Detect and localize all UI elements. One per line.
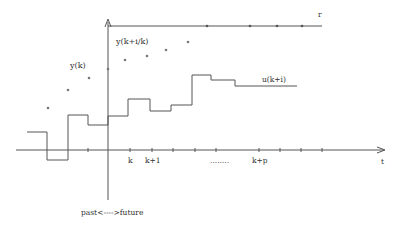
measured-output-label: y(k)	[69, 61, 86, 70]
predicted-output-label: y(k+i/k)	[115, 37, 148, 46]
tick-label-k-plus-1: k+1	[145, 156, 161, 165]
tick-label-k: k	[128, 156, 133, 165]
past-future-caption: past<---->future	[81, 208, 144, 217]
tick-ellipsis: ........	[210, 156, 229, 165]
control-input-steps	[27, 75, 297, 160]
time-axis-label: t	[381, 157, 384, 166]
control-input-label: u(k+i)	[262, 75, 286, 84]
tick-label-k-plus-p: k+p	[252, 156, 268, 165]
mpc-diagram: r t k k+1 ........ k+p u(k+i) y(k) y(k+i…	[0, 0, 400, 232]
past-output-dots	[47, 68, 110, 110]
reference-label: r	[318, 10, 322, 19]
